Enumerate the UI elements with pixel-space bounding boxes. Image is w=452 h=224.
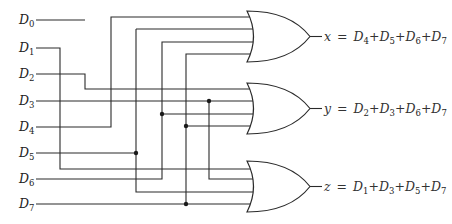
junction-dot	[184, 124, 188, 128]
or-gate-y	[247, 83, 322, 134]
input-labels: D0 D1 D2 D3 D4 D5 D6 D7	[18, 12, 34, 213]
wires	[36, 17, 256, 204]
label-d5: D5	[18, 145, 34, 162]
wire-d2	[36, 74, 256, 89]
junction-dot	[134, 151, 138, 155]
junction-dot	[184, 202, 188, 206]
label-d1: D1	[18, 40, 34, 57]
label-d2: D2	[18, 66, 34, 83]
junction-dot	[207, 99, 211, 103]
wire-d1	[36, 48, 256, 169]
label-d4: D4	[18, 119, 34, 136]
logic-diagram: D0 D1 D2 D3 D4 D5 D6 D7	[0, 0, 452, 224]
label-d7: D7	[18, 196, 34, 213]
or-gate-z	[247, 161, 322, 212]
or-gate-x	[247, 11, 322, 62]
wire-d6	[36, 42, 256, 179]
label-d3: D3	[18, 93, 34, 110]
equation-x: x = D4+D5+D6+D7	[324, 27, 447, 46]
equation-y: y = D2+D3+D6+D7	[323, 99, 447, 118]
junctions	[134, 99, 211, 206]
label-d6: D6	[18, 171, 34, 188]
equation-z: z = D1+D3+D5+D7	[323, 177, 446, 196]
label-d0: D0	[18, 12, 34, 29]
wire-d7-up	[186, 54, 256, 204]
wire-d4	[36, 17, 256, 127]
wire-d3-branch	[209, 101, 256, 179]
junction-dot	[160, 112, 164, 116]
